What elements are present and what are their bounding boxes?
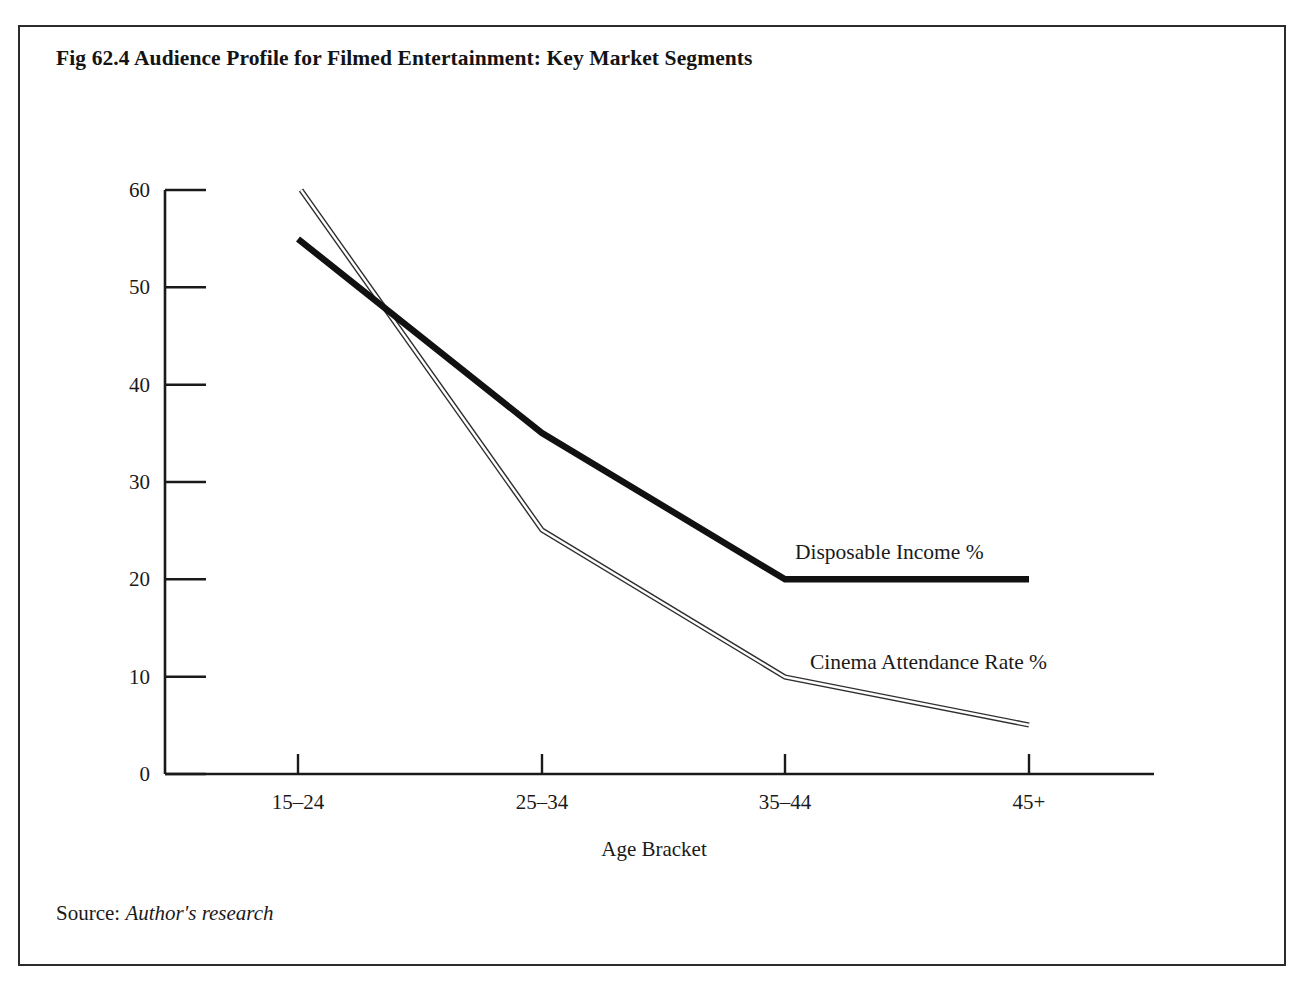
series-label-cinema-attendance: Cinema Attendance Rate % [810, 650, 1047, 675]
x-axis-title: Age Bracket [20, 837, 1288, 862]
series-line-cinema-attendance [301, 190, 1029, 725]
series-line-disposable-income [298, 239, 1029, 579]
figure-frame: Fig 62.4 Audience Profile for Filmed Ent… [18, 25, 1286, 966]
y-tick-label-60: 60 [90, 178, 150, 203]
source-note: Source: Author's research [56, 901, 274, 926]
y-tick-label-30: 30 [90, 470, 150, 495]
x-axis-ticks [298, 754, 1029, 774]
chart-axes [165, 190, 1154, 774]
y-tick-label-20: 20 [90, 567, 150, 592]
y-tick-label-50: 50 [90, 275, 150, 300]
x-tick-label-45-plus: 45+ [959, 790, 1099, 815]
source-label: Source: [56, 901, 120, 925]
series-line-cinema-attendance-inner [301, 190, 1029, 725]
y-tick-label-0: 0 [90, 762, 150, 787]
y-tick-label-10: 10 [90, 664, 150, 689]
series-label-disposable-income: Disposable Income % [795, 540, 984, 565]
y-axis-ticks [165, 190, 206, 774]
x-tick-label-25-34: 25–34 [472, 790, 612, 815]
source-value: Author's research [125, 901, 273, 925]
chart-series-lines [298, 190, 1029, 725]
x-tick-label-15-24: 15–24 [228, 790, 368, 815]
y-tick-label-40: 40 [90, 372, 150, 397]
line-chart-plot [20, 27, 1288, 968]
x-tick-label-35-44: 35–44 [715, 790, 855, 815]
